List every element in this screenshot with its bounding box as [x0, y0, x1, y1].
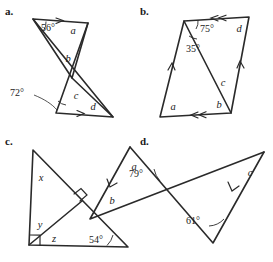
figure-a-panel: a. 56° 72° a b c d	[0, 0, 136, 131]
angle-label-a: a	[170, 101, 175, 112]
figure-b-drawing: 75° 35° a b c d	[136, 0, 273, 131]
angle-label-x: x	[38, 172, 44, 183]
figure-c-panel: c. 54° x y z	[0, 131, 136, 262]
angle-label-b: b	[216, 99, 221, 110]
angle-label-72: 72°	[10, 87, 24, 98]
angle-label-54: 54°	[89, 234, 103, 245]
angle-label-c: c	[221, 77, 226, 88]
angle-label-d: d	[236, 23, 242, 34]
angle-label-c: c	[74, 90, 79, 101]
figure-d-label: d.	[140, 136, 149, 147]
angle-label-a: a	[131, 161, 136, 172]
angle-label-y: y	[37, 219, 43, 230]
angle-label-56: 56°	[41, 22, 55, 33]
worksheet-page: a. 56° 72° a b c d b.	[0, 0, 273, 262]
figure-b-panel: b. 75° 35° a b c d	[136, 0, 273, 131]
angle-arc-54	[107, 235, 113, 246]
angle-label-a: a	[70, 25, 75, 36]
figure-b-diagonal	[184, 21, 231, 113]
figure-a-label: a.	[5, 6, 13, 17]
angle-label-61: 61°	[186, 215, 200, 226]
angle-label-b: b	[65, 53, 70, 64]
angle-label-75: 75°	[200, 23, 214, 34]
leader-line-72	[34, 95, 57, 110]
figure-d-drawing: 79° 61° a b c	[136, 131, 273, 262]
angle-label-z: z	[51, 233, 56, 244]
figure-c-drawing: 54° x y z	[0, 131, 136, 262]
angle-label-d: d	[90, 101, 96, 112]
figure-c-label: c.	[5, 136, 13, 147]
angle-arc-61	[209, 219, 224, 226]
angle-label-c: c	[248, 167, 253, 178]
figure-b-label: b.	[140, 6, 149, 17]
angle-arc-75	[196, 20, 198, 29]
angle-label-35: 35°	[186, 43, 200, 54]
angle-label-b: b	[109, 195, 114, 206]
figure-a-drawing: 56° 72° a b c d	[0, 0, 136, 131]
figure-d-panel: d. 79° 61° a b c	[136, 131, 273, 262]
figure-d-right-triangle	[130, 147, 264, 243]
parallel-arrow-icon-right	[228, 182, 239, 191]
